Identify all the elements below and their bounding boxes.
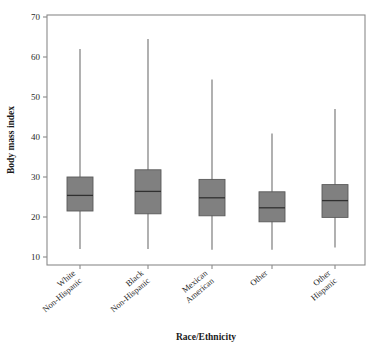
y-tick-label: 30 — [31, 172, 41, 182]
y-axis-title: Body mass index — [6, 106, 16, 174]
y-tick-label: 10 — [31, 252, 41, 262]
chart-canvas: 10203040506070 WhiteNon-HispanicBlackNon… — [0, 0, 377, 351]
box-iqr — [259, 192, 285, 222]
y-tick-label: 20 — [31, 212, 41, 222]
y-tick-label: 50 — [31, 92, 41, 102]
x-axis-title: Race/Ethnicity — [176, 332, 236, 342]
box-plot-chart: 10203040506070 WhiteNon-HispanicBlackNon… — [0, 0, 377, 351]
y-tick-label: 40 — [31, 132, 41, 142]
box-iqr — [67, 177, 93, 211]
y-tick-label: 70 — [31, 12, 41, 22]
y-tick-label: 60 — [31, 52, 41, 62]
